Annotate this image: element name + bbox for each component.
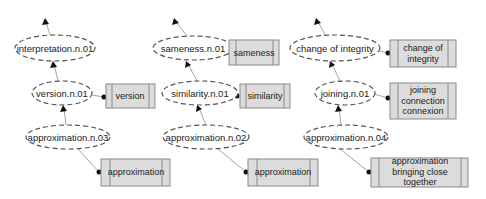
arrow-head-icon: [314, 18, 321, 25]
synset-label: approximation.n.02: [166, 132, 247, 143]
synset-label: change of integrity: [296, 43, 374, 54]
synset-label: approximation.n.03: [28, 132, 109, 143]
lemma-label: approximation: [255, 167, 312, 178]
synset-label: joining.n.01: [321, 88, 370, 99]
arrow-head-icon: [185, 61, 191, 68]
lemma-label: sameness: [233, 48, 274, 59]
edge-change-up: [318, 22, 326, 36]
lemma-label: version: [115, 91, 144, 102]
lemma-label: change of integrity: [403, 43, 443, 64]
arrow-head-icon: [196, 105, 202, 112]
arrow-head-icon: [42, 18, 49, 25]
edge-approx2-lemma: [218, 149, 246, 172]
lemma-label: similarity: [248, 91, 283, 102]
arrow-head-icon: [50, 61, 57, 68]
synset-label: interpretation.n.01: [17, 43, 94, 54]
edge-approx3-lemma: [78, 149, 99, 172]
synset-label: similarity.n.01: [171, 88, 228, 99]
lemma-label: approximation bringing close together: [387, 156, 453, 188]
edge-approx2-to-similarity: [199, 108, 206, 125]
arrow-head-icon: [329, 61, 335, 68]
lemma-label: approximation: [108, 167, 165, 178]
synset-label: version.n.01: [36, 88, 88, 99]
arrow-head-icon: [60, 105, 67, 112]
arrow-head-icon: [335, 105, 342, 112]
edge-similarity-to-sameness: [188, 64, 197, 81]
synset-label: sameness.n.01: [161, 43, 225, 54]
lemma-label: joining connection connexion: [401, 85, 445, 117]
edge-joining-to-change: [332, 64, 340, 81]
edge-approx4-lemma: [340, 149, 369, 172]
edge-sameness-up: [176, 22, 187, 36]
synset-label: approximation.n.04: [306, 132, 387, 143]
